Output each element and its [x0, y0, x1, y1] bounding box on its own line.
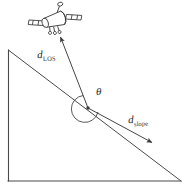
- d-los-subscript: LOS: [43, 54, 56, 61]
- diagram-vector-graphics: [0, 0, 189, 189]
- d-slope-variable: d: [128, 113, 134, 125]
- d-los-label: dLOS: [37, 45, 56, 62]
- measurement-origin-dot: [86, 106, 89, 109]
- triangle-slope-edge: [9, 51, 181, 182]
- d-slope-subscript: slope: [134, 119, 148, 126]
- satellite-solar-panel-right: [64, 10, 82, 24]
- satellite-icon: [25, 0, 85, 41]
- satellite-dish-antenna: [55, 2, 65, 13]
- d-los-variable: d: [37, 48, 43, 60]
- theta-label: θ: [96, 86, 101, 97]
- slope-triangle: [8, 50, 181, 181]
- d-los-vector: [61, 37, 89, 108]
- diagram-canvas: dLOS dslope θ: [0, 0, 189, 189]
- d-slope-label: dslope: [128, 110, 148, 127]
